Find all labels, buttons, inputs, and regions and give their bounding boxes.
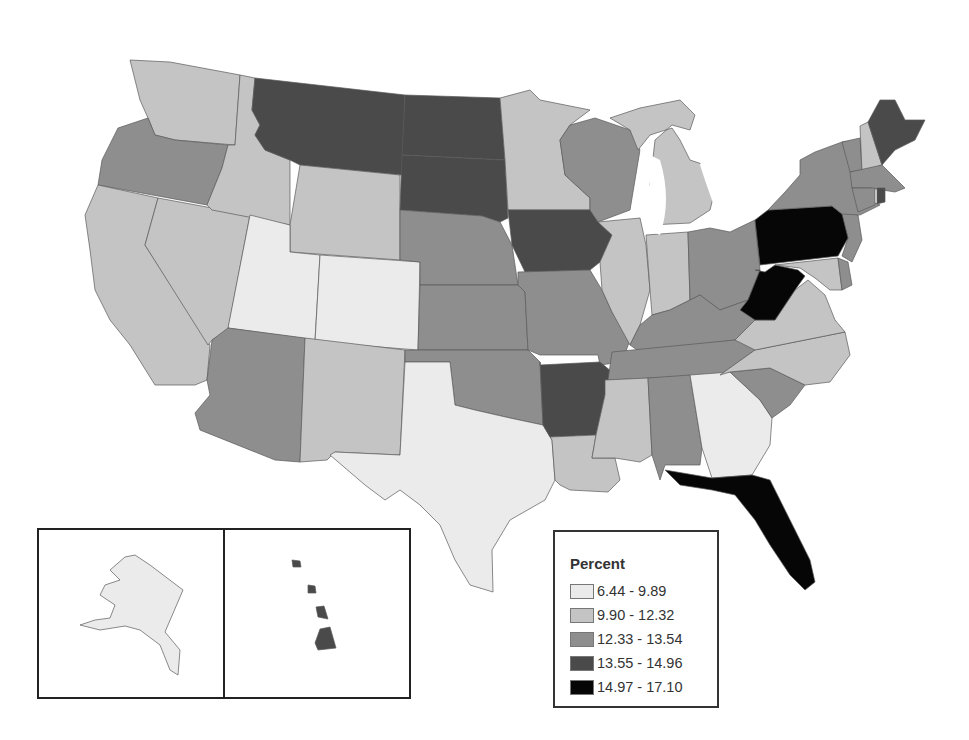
legend-swatch — [570, 680, 594, 695]
state-ks[interactable] — [418, 285, 528, 350]
legend-label: 13.55 - 14.96 — [597, 655, 682, 671]
legend-title: Percent — [570, 555, 625, 572]
legend-item: 9.90 - 12.32 — [570, 606, 674, 624]
alaska-inset-frame — [37, 528, 225, 699]
legend-swatch — [570, 584, 594, 599]
state-in[interactable] — [646, 232, 690, 315]
state-nd[interactable] — [402, 95, 505, 160]
legend: Percent 6.44 - 9.89 9.90 - 12.32 12.33 -… — [553, 530, 719, 708]
legend-swatch — [570, 632, 594, 647]
state-nm[interactable] — [300, 338, 405, 462]
legend-item: 6.44 - 9.89 — [570, 582, 666, 600]
hawaii-inset-frame — [223, 528, 411, 699]
legend-label: 9.90 - 12.32 — [597, 607, 674, 623]
legend-swatch — [570, 656, 594, 671]
legend-label: 12.33 - 13.54 — [597, 631, 682, 647]
legend-swatch — [570, 608, 594, 623]
state-ri[interactable] — [877, 188, 885, 204]
state-co[interactable] — [315, 255, 420, 350]
legend-item: 12.33 - 13.54 — [570, 630, 682, 648]
legend-item: 13.55 - 14.96 — [570, 654, 682, 672]
legend-label: 6.44 - 9.89 — [597, 583, 666, 599]
state-pa[interactable] — [755, 206, 848, 265]
contiguous-us — [85, 60, 925, 592]
state-wy[interactable] — [290, 165, 400, 260]
state-az[interactable] — [195, 328, 305, 462]
legend-item: 14.97 - 17.10 — [570, 678, 682, 696]
legend-label: 14.97 - 17.10 — [597, 679, 682, 695]
